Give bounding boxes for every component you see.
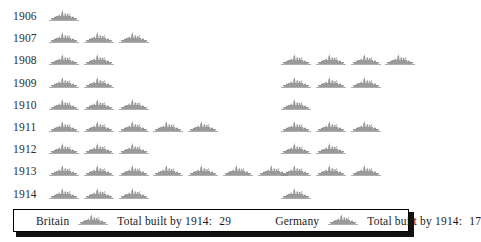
legend-entry-britain: Britain Total built by 1914: 29: [36, 214, 231, 227]
battleship-icon: [84, 32, 114, 45]
fleet-germany-1913: [281, 162, 385, 184]
chart-row-1910: 1910: [0, 96, 425, 118]
chart-row-1912: 1912: [0, 140, 425, 162]
battleship-icon: [281, 121, 311, 134]
battleship-icon: [281, 143, 311, 156]
battleship-icon: [119, 99, 149, 112]
chart-row-1907: 1907: [0, 29, 425, 51]
pictogram-chart: 190619071908190919101911191219131914: [0, 0, 425, 205]
battleship-icon: [328, 214, 358, 227]
fleet-germany-1914: [281, 185, 316, 207]
battleship-icon: [119, 32, 149, 45]
fleet-germany-1911: [281, 118, 385, 140]
battleship-icon: [316, 54, 346, 67]
battleship-icon: [385, 54, 415, 67]
fleet-britain-1908: [49, 51, 119, 73]
battleship-icon: [49, 32, 79, 45]
battleship-icon: [49, 188, 79, 201]
legend-box: Britain Total built by 1914: 29 Germany …: [13, 209, 409, 232]
chart-legend: Britain Total built by 1914: 29 Germany …: [13, 209, 411, 234]
fleet-germany-1912: [281, 140, 351, 162]
fleet-britain-1907: [49, 29, 153, 51]
battleship-icon: [188, 121, 218, 134]
fleet-britain-1906: [49, 7, 84, 29]
legend-total-value-britain: 29: [219, 215, 231, 227]
chart-row-1913: 1913: [0, 162, 425, 184]
battleship-icon: [281, 165, 311, 178]
fleet-germany-1908: [281, 51, 420, 73]
battleship-icon: [119, 143, 149, 156]
year-label: 1911: [13, 120, 47, 134]
battleship-icon: [316, 143, 346, 156]
year-label: 1907: [13, 31, 47, 45]
year-label: 1914: [13, 187, 47, 201]
battleship-icon: [281, 188, 311, 201]
battleship-icon: [84, 77, 114, 90]
legend-entry-germany: Germany Total built by 1914: 17: [275, 214, 481, 227]
battleship-icon: [84, 54, 114, 67]
battleship-icon: [153, 165, 183, 178]
chart-row-1908: 1908: [0, 51, 425, 73]
fleet-britain-1914: [49, 185, 153, 207]
battleship-icon: [49, 77, 79, 90]
battleship-icon: [351, 54, 381, 67]
battleship-icon: [84, 143, 114, 156]
battleship-icon: [49, 121, 79, 134]
battleship-icon: [351, 121, 381, 134]
legend-total-label-britain: Total built by 1914:: [117, 215, 212, 227]
fleet-britain-1910: [49, 96, 153, 118]
battleship-icon: [316, 165, 346, 178]
battleship-icon: [119, 165, 149, 178]
fleet-britain-1912: [49, 140, 153, 162]
chart-row-1914: 1914: [0, 185, 425, 207]
battleship-icon: [49, 10, 79, 23]
year-label: 1913: [13, 164, 47, 178]
battleship-icon: [119, 188, 149, 201]
chart-row-1906: 1906: [0, 7, 425, 29]
legend-total-value-germany: 17: [469, 215, 481, 227]
battleship-icon: [316, 77, 346, 90]
battleship-icon: [281, 77, 311, 90]
battleship-icon: [351, 77, 381, 90]
fleet-britain-1913: [49, 162, 293, 184]
legend-label-germany: Germany: [275, 215, 319, 227]
legend-label-britain: Britain: [36, 215, 69, 227]
battleship-icon: [84, 165, 114, 178]
year-label: 1910: [13, 98, 47, 112]
battleship-icon: [188, 165, 218, 178]
chart-row-1909: 1909: [0, 74, 425, 96]
fleet-germany-1909: [281, 74, 385, 96]
battleship-icon: [78, 214, 108, 227]
battleship-icon: [49, 54, 79, 67]
battleship-icon: [351, 165, 381, 178]
battleship-icon: [49, 143, 79, 156]
fleet-britain-1909: [49, 74, 119, 96]
chart-row-1911: 1911: [0, 118, 425, 140]
fleet-britain-1911: [49, 118, 223, 140]
battleship-icon: [84, 188, 114, 201]
battleship-icon: [223, 165, 253, 178]
battleship-icon: [84, 99, 114, 112]
year-label: 1908: [13, 53, 47, 67]
battleship-icon: [316, 121, 346, 134]
battleship-icon: [281, 54, 311, 67]
battleship-icon: [84, 121, 114, 134]
year-label: 1912: [13, 142, 47, 156]
legend-total-label-germany: Total built by 1914:: [367, 215, 462, 227]
year-label: 1909: [13, 76, 47, 90]
year-label: 1906: [13, 9, 47, 23]
battleship-icon: [281, 99, 311, 112]
battleship-icon: [49, 99, 79, 112]
battleship-icon: [153, 121, 183, 134]
fleet-germany-1910: [281, 96, 316, 118]
battleship-icon: [119, 121, 149, 134]
battleship-icon: [49, 165, 79, 178]
